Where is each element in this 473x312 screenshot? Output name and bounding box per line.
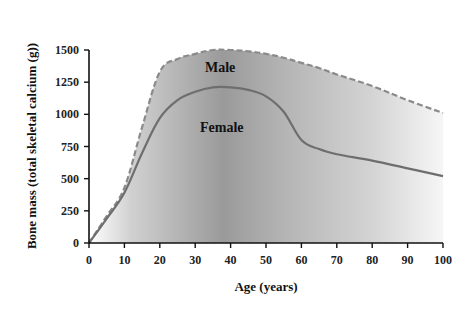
y-axis-title: Bone mass (total skeletal calcium (g)) — [24, 43, 39, 249]
y-tick-label: 0 — [73, 236, 79, 250]
x-tick-label: 90 — [402, 253, 414, 267]
x-tick-label: 10 — [118, 253, 130, 267]
x-tick-label: 0 — [86, 253, 92, 267]
x-tick-label: 30 — [189, 253, 201, 267]
male-label: Male — [205, 60, 235, 75]
x-tick-label: 60 — [295, 253, 307, 267]
y-tick-label: 1000 — [55, 107, 79, 121]
y-axis-ticks: 0250500750100012501500 — [55, 43, 89, 250]
y-tick-label: 1500 — [55, 43, 79, 57]
y-tick-label: 500 — [61, 172, 79, 186]
x-tick-label: 100 — [434, 253, 452, 267]
x-tick-label: 20 — [154, 253, 166, 267]
x-tick-label: 50 — [260, 253, 272, 267]
x-axis-ticks: 0102030405060708090100 — [86, 243, 452, 267]
x-tick-label: 80 — [366, 253, 378, 267]
y-tick-label: 750 — [61, 140, 79, 154]
x-tick-label: 40 — [225, 253, 237, 267]
female-label: Female — [200, 120, 244, 135]
y-tick-label: 250 — [61, 204, 79, 218]
plot-area — [89, 50, 443, 243]
y-tick-label: 1250 — [55, 75, 79, 89]
x-tick-label: 70 — [331, 253, 343, 267]
x-axis-title: Age (years) — [234, 279, 297, 294]
bone-mass-chart: 0250500750100012501500 01020304050607080… — [0, 0, 473, 312]
bone-mass-area — [89, 50, 443, 243]
